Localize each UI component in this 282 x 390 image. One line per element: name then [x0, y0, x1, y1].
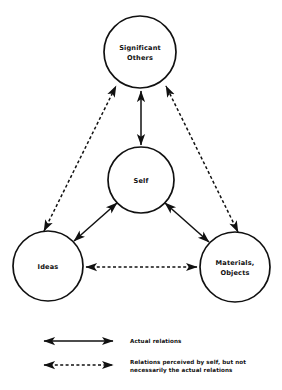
legend: Actual relations Relations perceived by …	[44, 338, 246, 374]
node-significant-others[interactable]: Significant Others	[104, 16, 176, 88]
diagram-svg: Significant Others Self Ideas Materials,…	[0, 0, 282, 390]
link-self-to-materials	[165, 203, 209, 242]
significant-others-label-line2: Others	[127, 54, 153, 62]
significant-others-label-line1: Significant	[119, 44, 161, 52]
link-materials-to-significant-others	[166, 86, 238, 232]
legend-perceived-relations-label-line2: necessarily the actual relations	[130, 367, 233, 374]
node-self[interactable]: Self	[108, 147, 174, 213]
materials-objects-circle[interactable]	[200, 232, 270, 302]
ideas-label: Ideas	[38, 263, 59, 271]
link-ideas-to-significant-others	[44, 86, 116, 231]
materials-objects-label-line1: Materials,	[216, 259, 255, 267]
self-label: Self	[134, 177, 149, 185]
legend-perceived-relations-label-line1: Relations perceived by self, but not	[130, 359, 246, 366]
node-materials-objects[interactable]: Materials, Objects	[200, 232, 270, 302]
link-self-to-ideas	[74, 203, 117, 241]
legend-item-actual-relations: Actual relations	[44, 338, 182, 344]
legend-actual-relations-label: Actual relations	[130, 338, 182, 344]
significant-others-circle[interactable]	[104, 16, 176, 88]
legend-item-perceived-relations: Relations perceived by self, but not nec…	[44, 359, 246, 374]
node-ideas[interactable]: Ideas	[13, 231, 83, 301]
materials-objects-label-line2: Objects	[220, 269, 249, 277]
diagram-canvas: Significant Others Self Ideas Materials,…	[0, 0, 282, 390]
